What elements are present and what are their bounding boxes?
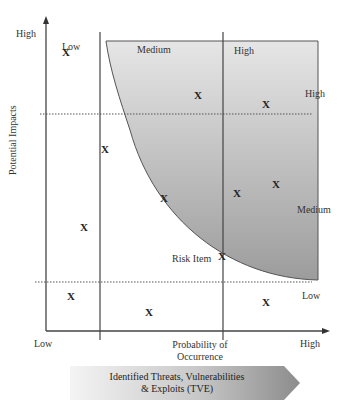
x-axis-title: Probability of Occurrence [150,339,250,363]
tve-banner-line2: & Exploits (TVE) [72,383,282,395]
row-label-low: Low [302,290,320,302]
row-label-medium: Medium [297,204,331,216]
risk-marker: X [262,296,270,308]
column-label-high: High [234,45,254,57]
risk-marker: X [62,46,70,58]
y-axis-title: Potential Impacts [7,105,18,175]
x-axis-title-line2: Occurrence [150,351,250,363]
risk-item-label: Risk Item [172,253,211,265]
risk-marker: X [272,178,280,190]
column-label-medium: Medium [137,44,171,56]
risk-item-marker: X [218,250,226,262]
risk-marker: X [233,187,241,199]
y-axis-arrow-icon [43,16,49,24]
high-risk-region [106,41,318,280]
risk-marker: X [160,192,168,204]
y-axis-high-label: High [16,28,36,40]
risk-marker: X [262,98,270,110]
x-axis-high-label: High [300,338,320,350]
x-axis-title-line1: Probability of [150,339,250,351]
risk-marker: X [101,143,109,155]
row-label-high: High [305,88,325,100]
risk-marker: X [145,306,153,318]
tve-banner-line1: Identified Threats, Vulnerabilities [72,371,282,383]
risk-marker: X [80,221,88,233]
x-axis-arrow-icon [322,328,330,334]
risk-marker: X [194,89,202,101]
risk-marker: X [67,290,75,302]
tve-banner-text: Identified Threats, Vulnerabilities & Ex… [72,371,282,395]
x-axis-low-label: Low [34,338,52,350]
